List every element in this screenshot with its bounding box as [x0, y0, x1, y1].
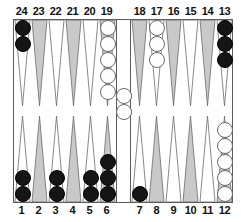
point-22[interactable]: [48, 20, 65, 111]
top-left-numbers: 24 23 22 21 20 19: [13, 5, 115, 18]
checker-stack-12[interactable]: [216, 122, 233, 202]
point-4[interactable]: [65, 111, 82, 202]
point-18[interactable]: [131, 20, 148, 111]
point-number-1: 1: [13, 204, 30, 217]
checker[interactable]: [100, 20, 116, 36]
point-13[interactable]: [216, 20, 233, 111]
checker[interactable]: [100, 36, 116, 52]
point-number-10: 10: [182, 204, 199, 217]
board-bar[interactable]: [116, 20, 131, 202]
checker[interactable]: [116, 88, 132, 104]
point-20[interactable]: [82, 20, 99, 111]
point-number-6: 6: [98, 204, 115, 217]
checker[interactable]: [217, 36, 233, 52]
checker-stack-24[interactable]: [14, 20, 31, 52]
point-19[interactable]: [99, 20, 116, 111]
point-21[interactable]: [65, 20, 82, 111]
point-23[interactable]: [31, 20, 48, 111]
point-12[interactable]: [216, 111, 233, 202]
point-number-22: 22: [47, 5, 64, 18]
point-number-18: 18: [131, 5, 148, 18]
checker[interactable]: [49, 186, 65, 202]
point-number-21: 21: [64, 5, 81, 18]
point-1[interactable]: [14, 111, 31, 202]
point-number-24: 24: [13, 5, 30, 18]
point-17[interactable]: [148, 20, 165, 111]
checker[interactable]: [217, 186, 233, 202]
checker-stack-5[interactable]: [82, 170, 99, 202]
top-right-numbers: 18 17 16 15 14 13: [131, 5, 233, 18]
checker[interactable]: [217, 52, 233, 68]
checker[interactable]: [149, 20, 165, 36]
point-number-13: 13: [216, 5, 233, 18]
point-number-14: 14: [199, 5, 216, 18]
point-6[interactable]: [99, 111, 116, 202]
point-8[interactable]: [148, 111, 165, 202]
checker-stack-7[interactable]: [131, 186, 148, 202]
point-number-8: 8: [148, 204, 165, 217]
point-11[interactable]: [199, 111, 216, 202]
point-number-17: 17: [148, 5, 165, 18]
point-number-3: 3: [47, 204, 64, 217]
top-point-numbers: 24 23 22 21 20 19 18 17 16 15 14 13: [13, 5, 233, 18]
checker[interactable]: [100, 170, 116, 186]
point-number-5: 5: [81, 204, 98, 217]
bar-checker-stack[interactable]: [116, 88, 132, 120]
point-triangle-20: [82, 20, 99, 111]
checker[interactable]: [116, 104, 132, 120]
checker[interactable]: [217, 20, 233, 36]
checker[interactable]: [100, 154, 116, 170]
point-3[interactable]: [48, 111, 65, 202]
point-number-20: 20: [81, 5, 98, 18]
checker[interactable]: [15, 20, 31, 36]
bottom-number-gap: [115, 204, 131, 217]
point-14[interactable]: [199, 20, 216, 111]
checker[interactable]: [217, 170, 233, 186]
checker-stack-17[interactable]: [148, 20, 165, 68]
quadrant-top-left: [14, 20, 116, 111]
checker[interactable]: [217, 122, 233, 138]
point-2[interactable]: [31, 111, 48, 202]
checker-stack-3[interactable]: [48, 170, 65, 202]
checker[interactable]: [15, 186, 31, 202]
checker[interactable]: [83, 186, 99, 202]
checker[interactable]: [83, 170, 99, 186]
checker[interactable]: [217, 138, 233, 154]
point-10[interactable]: [182, 111, 199, 202]
point-triangle-21: [65, 20, 82, 111]
point-9[interactable]: [165, 111, 182, 202]
checker[interactable]: [100, 52, 116, 68]
point-triangle-18: [131, 20, 148, 111]
point-triangle-15: [182, 20, 199, 111]
checker[interactable]: [15, 36, 31, 52]
point-15[interactable]: [182, 20, 199, 111]
point-number-9: 9: [165, 204, 182, 217]
checker[interactable]: [149, 52, 165, 68]
checker[interactable]: [100, 84, 116, 100]
checker[interactable]: [132, 186, 148, 202]
point-16[interactable]: [165, 20, 182, 111]
point-triangle-11: [199, 111, 216, 202]
point-7[interactable]: [131, 111, 148, 202]
checker-stack-19[interactable]: [99, 20, 116, 100]
top-number-gap: [115, 5, 131, 18]
checker[interactable]: [149, 36, 165, 52]
point-24[interactable]: [14, 20, 31, 111]
checker[interactable]: [217, 154, 233, 170]
checker-stack-13[interactable]: [216, 20, 233, 68]
point-triangle-9: [165, 111, 182, 202]
point-triangle-22: [48, 20, 65, 111]
checker[interactable]: [100, 186, 116, 202]
point-number-7: 7: [131, 204, 148, 217]
point-number-19: 19: [98, 5, 115, 18]
checker-stack-6[interactable]: [99, 154, 116, 202]
point-5[interactable]: [82, 111, 99, 202]
point-number-2: 2: [30, 204, 47, 217]
point-number-16: 16: [165, 5, 182, 18]
checker[interactable]: [15, 170, 31, 186]
checker-stack-1[interactable]: [14, 170, 31, 202]
checker[interactable]: [100, 68, 116, 84]
point-number-23: 23: [30, 5, 47, 18]
checker[interactable]: [49, 170, 65, 186]
point-number-15: 15: [182, 5, 199, 18]
